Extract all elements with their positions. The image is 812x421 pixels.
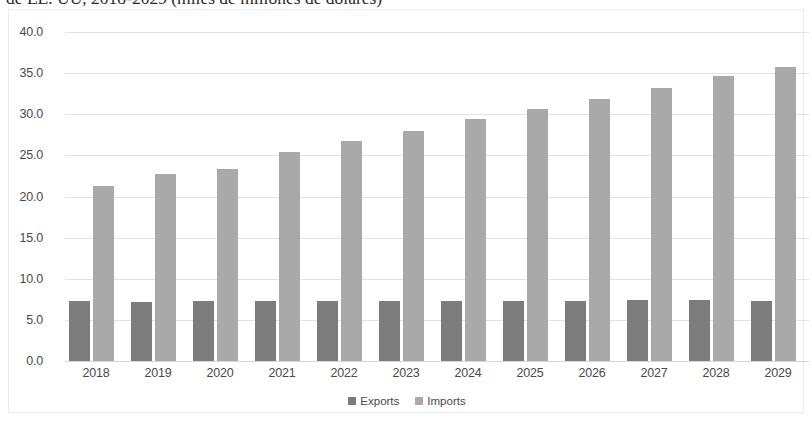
y-axis-tick: 10.0	[0, 272, 43, 286]
x-axis-tick-2022: 2022	[315, 366, 373, 380]
bar-group	[437, 32, 499, 361]
legend-label: Imports	[427, 395, 465, 407]
bar-group	[127, 32, 189, 361]
chart-container: 0.05.010.015.020.025.030.035.040.0 20182…	[8, 9, 804, 413]
x-axis-tick-2021: 2021	[253, 366, 311, 380]
x-axis-tick-2028: 2028	[687, 366, 745, 380]
bar-imports-2028[interactable]	[713, 76, 734, 361]
bar-imports-2022[interactable]	[341, 141, 362, 361]
x-axis-tick-2020: 2020	[191, 366, 249, 380]
bar-exports-2024[interactable]	[441, 301, 462, 361]
x-axis-tick-2019: 2019	[129, 366, 187, 380]
bar-exports-2026[interactable]	[565, 301, 586, 361]
legend-entry-exports[interactable]: Exports	[348, 395, 399, 407]
y-axis-tick: 0.0	[0, 354, 43, 368]
bar-imports-2020[interactable]	[217, 169, 238, 361]
y-axis-tick: 15.0	[0, 231, 43, 245]
bar-exports-2029[interactable]	[751, 301, 772, 361]
bar-group	[251, 32, 313, 361]
y-axis-tick: 40.0	[0, 25, 43, 39]
bar-exports-2028[interactable]	[689, 300, 710, 361]
bars-layer	[65, 32, 809, 361]
chart-title: de EE. UU, 2018-2029 (miles de millones …	[0, 0, 812, 8]
x-axis-tick-2023: 2023	[377, 366, 435, 380]
bar-group	[65, 32, 127, 361]
bar-exports-2027[interactable]	[627, 300, 648, 361]
bar-imports-2027[interactable]	[651, 88, 672, 361]
x-axis-tick-2024: 2024	[439, 366, 497, 380]
y-axis-tick: 35.0	[0, 66, 43, 80]
bar-group	[561, 32, 623, 361]
y-axis-tick: 30.0	[0, 107, 43, 121]
chart-legend: ExportsImports	[9, 395, 805, 407]
x-axis-tick-labels: 2018201920202021202220232024202520262027…	[65, 366, 809, 386]
gridline	[65, 361, 809, 362]
legend-swatch-icon	[348, 397, 356, 405]
bar-group	[623, 32, 685, 361]
bar-exports-2018[interactable]	[69, 301, 90, 361]
legend-entry-imports[interactable]: Imports	[415, 395, 465, 407]
bar-imports-2025[interactable]	[527, 109, 548, 362]
bar-exports-2025[interactable]	[503, 301, 524, 361]
x-axis-tick-2027: 2027	[625, 366, 683, 380]
bar-imports-2019[interactable]	[155, 174, 176, 361]
x-axis-tick-2025: 2025	[501, 366, 559, 380]
bar-group	[747, 32, 809, 361]
legend-label: Exports	[360, 395, 399, 407]
bar-group	[375, 32, 437, 361]
bar-group	[499, 32, 561, 361]
bar-imports-2026[interactable]	[589, 99, 610, 361]
bar-imports-2029[interactable]	[775, 67, 796, 361]
bar-imports-2024[interactable]	[465, 119, 486, 361]
x-axis-tick-2018: 2018	[67, 366, 125, 380]
x-axis-tick-2029: 2029	[749, 366, 807, 380]
bar-exports-2021[interactable]	[255, 301, 276, 361]
bar-group	[189, 32, 251, 361]
y-axis-tick: 25.0	[0, 148, 43, 162]
bar-exports-2023[interactable]	[379, 301, 400, 361]
bar-imports-2018[interactable]	[93, 186, 114, 361]
plot-area: 0.05.010.015.020.025.030.035.040.0	[65, 32, 809, 361]
x-axis-tick-2026: 2026	[563, 366, 621, 380]
bar-group	[313, 32, 375, 361]
bar-exports-2020[interactable]	[193, 301, 214, 361]
bar-exports-2019[interactable]	[131, 302, 152, 361]
bar-imports-2023[interactable]	[403, 131, 424, 361]
bar-exports-2022[interactable]	[317, 301, 338, 361]
bar-group	[685, 32, 747, 361]
bar-imports-2021[interactable]	[279, 152, 300, 361]
legend-swatch-icon	[415, 397, 423, 405]
y-axis-tick: 20.0	[0, 190, 43, 204]
y-axis-tick: 5.0	[0, 313, 43, 327]
